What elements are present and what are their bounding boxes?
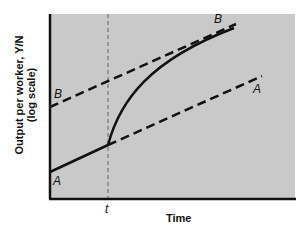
x-axis-label: Time	[166, 212, 191, 224]
label-a-right: A	[252, 82, 261, 96]
y-axis-label-line1: Output per worker, Y/N	[12, 36, 24, 155]
growth-chart: B A B A t Output per worker, Y/N (log sc…	[0, 0, 308, 235]
y-axis-label: Output per worker, Y/N (log scale)	[4, 40, 44, 150]
tick-label-t: t	[105, 202, 109, 216]
chart-canvas: B A B A t	[0, 0, 308, 235]
y-axis-label-line2: (log scale)	[24, 36, 36, 155]
label-b-left: B	[54, 87, 62, 101]
plot-area	[50, 14, 295, 199]
label-b-right: B	[214, 12, 222, 26]
label-a-left: A	[52, 174, 61, 188]
